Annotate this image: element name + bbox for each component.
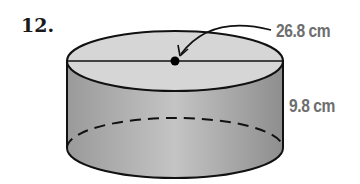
height-label: 9.8 cm (289, 95, 335, 117)
diameter-label: 26.8 cm (276, 20, 330, 42)
center-dot (171, 57, 180, 66)
